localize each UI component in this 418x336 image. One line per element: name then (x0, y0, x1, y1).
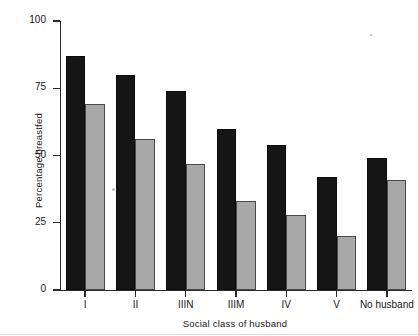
x-axis-tick (386, 291, 387, 297)
y-axis-tick-label: 0 (6, 283, 46, 294)
x-axis-tick (336, 291, 337, 297)
y-axis-tick (53, 20, 60, 21)
bar-chart-figure: Percentage breastfed 0255075100IIIIIINII… (0, 0, 418, 336)
y-axis-tick-label: 50 (6, 149, 46, 160)
y-axis-tick (53, 289, 60, 290)
y-axis-tick-label: 25 (6, 216, 46, 227)
x-axis-tick-label: No husband (360, 299, 414, 310)
y-axis-tick (53, 155, 60, 156)
page-edge-artifact (0, 334, 418, 335)
x-axis-tick (286, 291, 287, 297)
scan-speck (112, 188, 115, 191)
y-axis-line (60, 21, 61, 291)
bar-no-husband-light (387, 180, 407, 290)
bar-i-dark (66, 56, 86, 290)
x-axis-tick-label: IIIN (178, 299, 194, 310)
x-axis-tick-label: I (84, 299, 87, 310)
x-axis-tick (84, 291, 85, 297)
y-axis-tick-label: 100 (6, 14, 46, 25)
x-axis-tick (185, 291, 186, 297)
bar-iv-light (286, 215, 306, 290)
x-axis-tick-label: II (133, 299, 139, 310)
bar-iv-dark (267, 145, 287, 290)
bar-ii-dark (116, 75, 136, 290)
y-axis-tick (53, 88, 60, 89)
x-axis-tick (235, 291, 236, 297)
x-axis-label: Social class of husband (60, 318, 410, 329)
bar-iiin-dark (166, 91, 186, 290)
bar-v-dark (317, 177, 337, 290)
scan-speck (370, 34, 372, 36)
x-axis-tick-label: IIIM (228, 299, 245, 310)
bar-v-light (337, 236, 357, 290)
x-axis-tick-label: IV (282, 299, 291, 310)
bar-iiin-light (186, 164, 206, 290)
y-axis-tick (53, 222, 60, 223)
x-axis-tick (135, 291, 136, 297)
bar-ii-light (135, 139, 155, 290)
bar-no-husband-dark (367, 158, 387, 290)
bar-iiim-light (236, 201, 256, 290)
y-axis-tick-label: 75 (6, 81, 46, 92)
bar-iiim-dark (217, 129, 237, 290)
x-axis-tick-label: V (333, 299, 340, 310)
bar-i-light (85, 104, 105, 290)
